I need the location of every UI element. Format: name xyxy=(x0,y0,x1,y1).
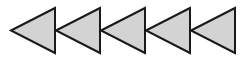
triangle-left-icon-3 xyxy=(101,8,145,53)
triangle-row-diagram xyxy=(0,0,243,59)
triangle-left-icon-4 xyxy=(146,8,190,53)
triangle-group xyxy=(11,8,235,53)
triangle-left-icon-1 xyxy=(11,8,55,53)
triangle-left-icon-5 xyxy=(191,8,235,53)
triangle-left-icon-2 xyxy=(56,8,100,53)
